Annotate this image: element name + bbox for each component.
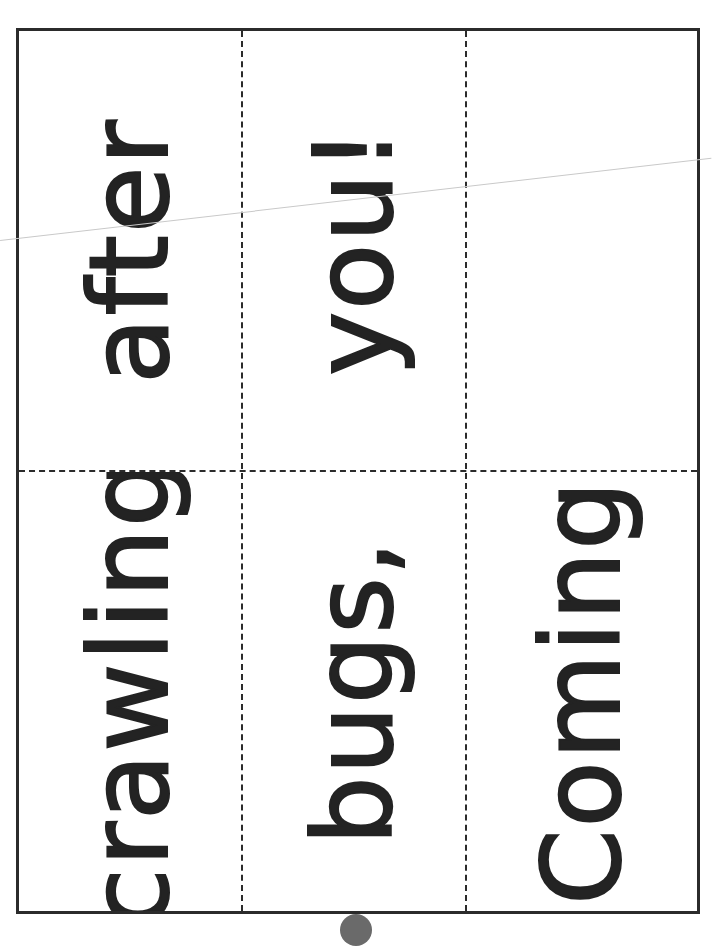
card-word: Coming [528,479,636,905]
word-card-r2c3: Coming [467,472,697,911]
card-word: bugs, [300,538,408,844]
scan-artifact-blob [340,914,372,946]
word-card-sheet: after you! crawling bugs, Coming [16,28,700,914]
word-card-r1c2: you! [243,31,465,470]
card-word: after [76,118,184,384]
word-card-r1c1: after [19,31,241,470]
word-card-r2c1: crawling [19,472,241,911]
card-word: crawling [76,472,184,911]
word-card-r2c2: bugs, [243,472,465,911]
card-word: you! [300,126,408,376]
word-card-r1c3 [467,31,697,470]
